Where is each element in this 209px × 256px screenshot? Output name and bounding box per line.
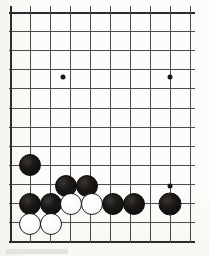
star-point-upper-left (61, 75, 66, 80)
board-line-horizontal-1 (9, 31, 195, 32)
black-stone-7[interactable] (123, 193, 145, 215)
board-line-horizontal-4 (9, 88, 195, 89)
board-line-horizontal-12 (9, 241, 195, 243)
white-stone-3[interactable] (19, 213, 41, 235)
white-stone-4[interactable] (40, 213, 62, 235)
scan-artifact (6, 249, 68, 254)
board-line-horizontal-7 (9, 146, 195, 147)
board-line-vertical-7 (150, 6, 151, 243)
star-point-lower-right (168, 184, 173, 189)
board-line-vertical-9 (190, 6, 191, 243)
black-stone-8[interactable] (159, 193, 182, 216)
board-line-horizontal-6 (9, 127, 195, 128)
board-line-horizontal-3 (9, 69, 195, 70)
white-stone-1[interactable] (60, 193, 82, 215)
black-stone-1[interactable] (19, 154, 41, 176)
black-stone-5[interactable] (40, 193, 62, 215)
board-line-horizontal-5 (9, 108, 195, 109)
black-stone-4[interactable] (19, 193, 41, 215)
white-stone-2[interactable] (81, 193, 103, 215)
go-diagram-root (0, 0, 209, 256)
black-stone-6[interactable] (102, 193, 124, 215)
board-line-vertical-0 (10, 6, 12, 243)
board-line-horizontal-2 (9, 50, 195, 51)
board-line-horizontal-0 (9, 12, 195, 14)
star-point-upper-right (168, 75, 173, 80)
go-board (0, 0, 209, 256)
